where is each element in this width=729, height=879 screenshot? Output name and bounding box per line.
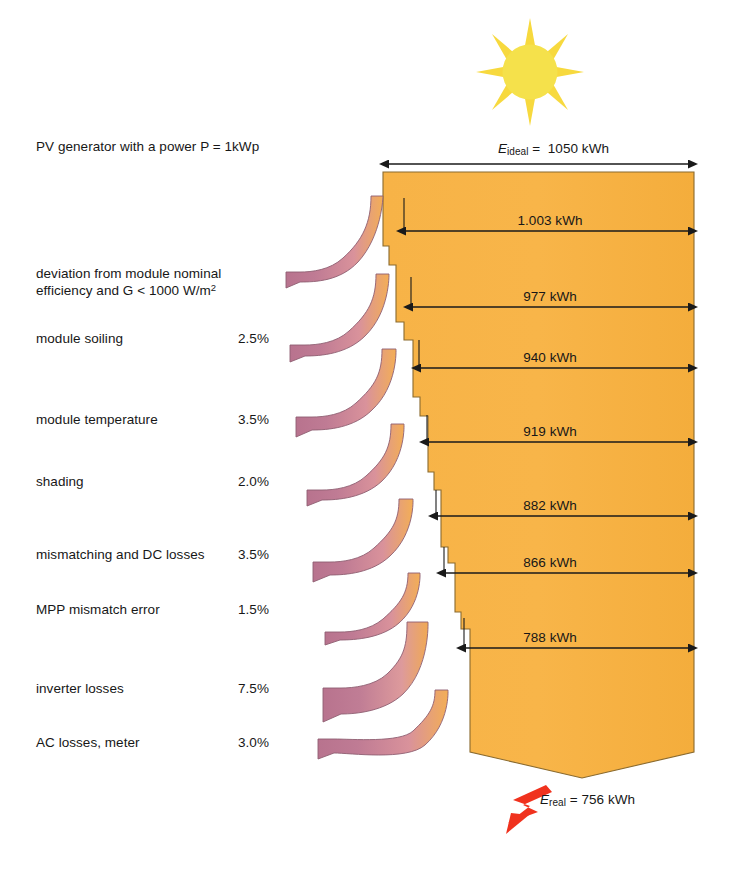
loss-label-deviation-line1: deviation from module nominal xyxy=(36,266,221,281)
loss-label-deviation: deviation from module nominalefficiency … xyxy=(36,265,221,300)
e-ideal-equals: = xyxy=(532,141,540,156)
loss-flow-module-temperature xyxy=(296,349,396,437)
loss-label-ac-meter: AC losses, meter xyxy=(36,734,140,751)
loss-flow-deviation xyxy=(286,196,383,288)
loss-flow-mpp-mismatch xyxy=(325,573,420,645)
energy-value-977: 977 kWh xyxy=(470,288,630,305)
loss-label-deviation-line2: efficiency and G < 1000 W/m xyxy=(36,283,211,298)
page-title: PV generator with a power P = 1kWp xyxy=(36,138,259,155)
energy-value-940: 940 kWh xyxy=(470,349,630,366)
energy-value-1003: 1.003 kWh xyxy=(470,212,630,229)
loss-percent-module-soiling: 2.5% xyxy=(238,330,269,347)
loss-label-module-temperature: module temperature xyxy=(36,411,158,428)
loss-percent-mismatching-dc: 3.5% xyxy=(238,546,269,563)
e-ideal-value: 1050 kWh xyxy=(548,141,609,156)
energy-value-788: 788 kWh xyxy=(470,629,630,646)
loss-flow-mismatching-dc xyxy=(313,499,413,582)
energy-value-866: 866 kWh xyxy=(470,554,630,571)
e-real-subscript: real xyxy=(549,797,566,808)
loss-label-inverter: inverter losses xyxy=(36,680,124,697)
sun-icon xyxy=(476,18,584,126)
e-real-symbol: E xyxy=(540,792,549,807)
loss-label-mismatching-dc: mismatching and DC losses xyxy=(36,546,205,563)
loss-percent-ac-meter: 3.0% xyxy=(238,734,269,751)
loss-flow-shading xyxy=(307,424,404,506)
loss-label-mpp-mismatch: MPP mismatch error xyxy=(36,601,160,618)
loss-label-module-soiling: module soiling xyxy=(36,330,123,347)
e-ideal-label: Eideal = 1050 kWh xyxy=(498,140,609,158)
e-real-equals: = xyxy=(570,792,578,807)
diagram-canvas: PV generator with a power P = 1kWp Eidea… xyxy=(0,0,729,879)
loss-percent-module-temperature: 3.5% xyxy=(238,411,269,428)
e-real-label: Ereal = 756 kWh xyxy=(540,791,635,809)
loss-label-deviation-sup: 2 xyxy=(211,282,216,293)
loss-percent-mpp-mismatch: 1.5% xyxy=(238,601,269,618)
loss-percent-inverter: 7.5% xyxy=(238,680,269,697)
energy-value-882: 882 kWh xyxy=(470,497,630,514)
loss-flow-module-soiling xyxy=(290,274,389,362)
energy-block xyxy=(383,172,694,778)
e-ideal-symbol: E xyxy=(498,141,507,156)
loss-label-shading: shading xyxy=(36,473,84,490)
e-ideal-subscript: ideal xyxy=(507,146,528,157)
e-real-value: 756 kWh xyxy=(582,792,636,807)
loss-percent-shading: 2.0% xyxy=(238,473,269,490)
energy-value-919: 919 kWh xyxy=(470,423,630,440)
